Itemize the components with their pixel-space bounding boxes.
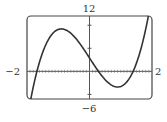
y-min-label: −6: [82, 103, 97, 114]
y-max-label: 12: [83, 3, 96, 14]
x-min-label: −2: [5, 66, 20, 77]
x-max-label: 2: [155, 66, 161, 77]
function-graph: 12 −6 −2 2: [0, 0, 167, 122]
